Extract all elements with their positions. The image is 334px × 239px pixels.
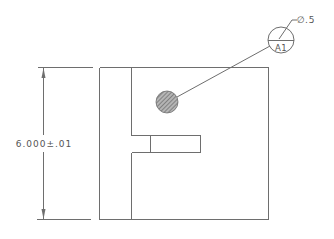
balloon-leader-line xyxy=(177,46,270,97)
balloon: A1 xyxy=(268,27,294,53)
vertical-dimension: 6.000±.01 xyxy=(16,68,93,220)
arrow-down-icon xyxy=(42,209,46,219)
hatched-hole xyxy=(156,91,178,113)
arrow-up-icon xyxy=(42,68,46,78)
diameter-callout: ∅ .5 xyxy=(297,15,316,25)
dimension-label: 6.000±.01 xyxy=(16,139,73,149)
balloon-label: A1 xyxy=(275,43,287,53)
outer-profile xyxy=(100,68,269,220)
diameter-value: .5 xyxy=(305,15,316,25)
slot xyxy=(132,136,201,153)
technical-drawing: A1 ∅ .5 6.000±.01 xyxy=(0,0,334,239)
